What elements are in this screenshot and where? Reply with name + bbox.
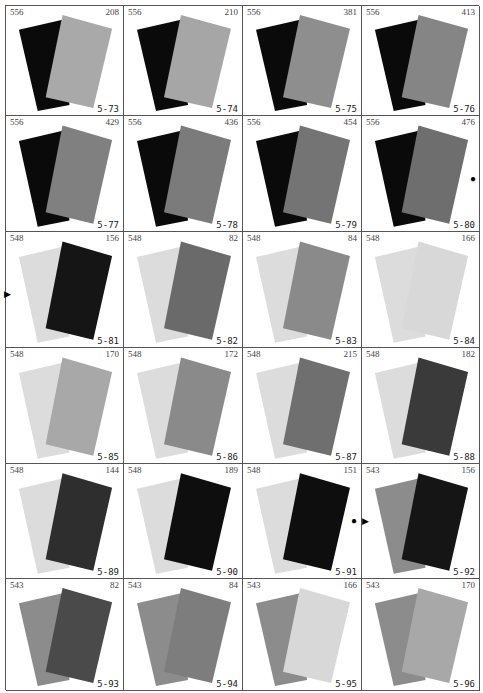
circle-marker-5-80: ●	[470, 174, 476, 184]
plate-label: 5-96	[453, 679, 475, 689]
triangle-marker-5-92: ▶	[362, 517, 369, 526]
overlapping-cards	[124, 116, 242, 231]
overlapping-cards	[362, 6, 479, 115]
overlapping-cards	[362, 116, 479, 231]
plate-label: 5-87	[335, 452, 357, 462]
sample-number: 151	[344, 465, 358, 475]
plate-label: 5-95	[335, 679, 357, 689]
reference-number: 543	[128, 580, 142, 590]
overlapping-cards	[243, 6, 361, 115]
color-plate-5-73: 556 208 5-73	[6, 6, 124, 116]
sample-number: 166	[462, 233, 476, 243]
reference-number: 548	[247, 465, 261, 475]
reference-number: 548	[10, 465, 24, 475]
overlapping-cards	[124, 348, 242, 463]
overlapping-cards	[6, 464, 123, 578]
color-plate-5-82: 548 82 5-82	[124, 232, 243, 348]
reference-number: 556	[128, 117, 142, 127]
reference-number: 548	[10, 233, 24, 243]
reference-number: 556	[366, 117, 380, 127]
overlapping-cards	[243, 464, 361, 578]
overlapping-cards	[243, 579, 361, 690]
triangle-marker-5-81: ▶	[4, 290, 11, 299]
overlapping-cards	[124, 6, 242, 115]
circle-marker-5-91: ●	[351, 516, 357, 526]
sample-number: 84	[348, 233, 357, 243]
plate-label: 5-83	[335, 336, 357, 346]
overlapping-cards	[124, 232, 242, 347]
overlapping-cards	[6, 348, 123, 463]
color-plate-5-74: 556 210 5-74	[124, 6, 243, 116]
plate-label: 5-80	[453, 220, 475, 230]
sample-number: 166	[344, 580, 358, 590]
reference-number: 543	[366, 580, 380, 590]
color-plate-5-87: 548 215 5-87	[243, 348, 362, 464]
plate-label: 5-86	[216, 452, 238, 462]
sample-number: 82	[110, 580, 119, 590]
plate-label: 5-82	[216, 336, 238, 346]
plate-label: 5-93	[97, 679, 119, 689]
reference-number: 548	[10, 349, 24, 359]
sample-number: 172	[225, 349, 239, 359]
color-plate-5-76: 556 413 5-76	[362, 6, 480, 116]
plate-label: 5-94	[216, 679, 238, 689]
color-plate-5-90: 548 189 5-90	[124, 464, 243, 579]
sample-number: 210	[225, 7, 239, 17]
reference-number: 556	[247, 117, 261, 127]
plate-label: 5-91	[335, 567, 357, 577]
color-plate-5-84: 548 166 5-84	[362, 232, 480, 348]
overlapping-cards	[6, 116, 123, 231]
color-plate-5-81: 548 156 5-81	[6, 232, 124, 348]
color-plate-5-86: 548 172 5-86	[124, 348, 243, 464]
sample-number: 454	[344, 117, 358, 127]
sample-number: 413	[462, 7, 476, 17]
color-plate-5-75: 556 381 5-75	[243, 6, 362, 116]
overlapping-cards	[124, 464, 242, 578]
sample-number: 208	[106, 7, 120, 17]
plate-label: 5-76	[453, 104, 475, 114]
plate-label: 5-74	[216, 104, 238, 114]
color-plate-5-93: 543 82 5-93	[6, 579, 124, 691]
color-plate-5-83: 548 84 5-83	[243, 232, 362, 348]
sample-number: 381	[344, 7, 358, 17]
sample-number: 84	[229, 580, 238, 590]
plate-label: 5-84	[453, 336, 475, 346]
color-plate-5-78: 556 436 5-78	[124, 116, 243, 232]
plate-label: 5-77	[97, 220, 119, 230]
reference-number: 556	[128, 7, 142, 17]
reference-number: 548	[366, 233, 380, 243]
overlapping-cards	[6, 6, 123, 115]
color-plate-5-91: 548 151 5-91	[243, 464, 362, 579]
reference-number: 548	[128, 349, 142, 359]
plate-grid: 556 208 5-73 556 210 5-74 556 381 5-75 5…	[5, 5, 479, 690]
reference-number: 556	[247, 7, 261, 17]
plate-label: 5-88	[453, 452, 475, 462]
sample-number: 182	[462, 349, 476, 359]
overlapping-cards	[243, 348, 361, 463]
plate-label: 5-73	[97, 104, 119, 114]
reference-number: 543	[247, 580, 261, 590]
plate-label: 5-85	[97, 452, 119, 462]
plate-label: 5-78	[216, 220, 238, 230]
plate-label: 5-75	[335, 104, 357, 114]
sample-number: 156	[462, 465, 476, 475]
reference-number: 543	[10, 580, 24, 590]
overlapping-cards	[6, 232, 123, 347]
sample-number: 82	[229, 233, 238, 243]
reference-number: 548	[366, 349, 380, 359]
sample-number: 144	[106, 465, 120, 475]
sample-number: 170	[106, 349, 120, 359]
overlapping-cards	[243, 232, 361, 347]
sample-number: 156	[106, 233, 120, 243]
overlapping-cards	[6, 579, 123, 690]
plate-label: 5-89	[97, 567, 119, 577]
overlapping-cards	[362, 348, 479, 463]
overlapping-cards	[124, 579, 242, 690]
sample-number: 215	[344, 349, 358, 359]
overlapping-cards	[362, 464, 479, 578]
plate-label: 5-81	[97, 336, 119, 346]
color-plate-5-85: 548 170 5-85	[6, 348, 124, 464]
plate-label: 5-92	[453, 567, 475, 577]
sample-number: 476	[462, 117, 476, 127]
reference-number: 548	[128, 465, 142, 475]
